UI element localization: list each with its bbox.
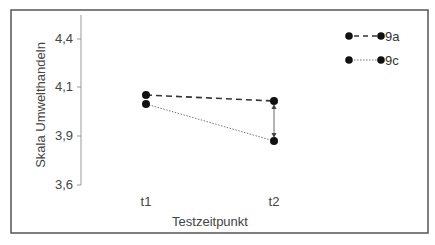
difference-arrow-t2 [272, 104, 277, 138]
y-axis-title: Skala Umwelthandeln [33, 42, 48, 168]
chart-frame [11, 10, 428, 233]
legend-label: 9a [385, 29, 400, 44]
legend-item-9c: 9c [345, 53, 399, 68]
y-tick-label: 3,6 [55, 177, 73, 192]
x-tick-label: t2 [269, 194, 280, 209]
y-tick-label: 4,1 [55, 79, 73, 94]
x-tick-label: t1 [141, 194, 152, 209]
series-9a-point-t1 [142, 91, 150, 99]
y-tick-label: 3,9 [55, 128, 73, 143]
legend-item-9a: 9a [345, 29, 400, 44]
series-9c-point-t1 [142, 100, 150, 108]
line-chart: 4,4 4,1 3,9 3,6 Skala Umwelthandeln t1 t… [0, 0, 435, 245]
legend: 9a 9c [345, 29, 400, 68]
y-axis: 4,4 4,1 3,9 3,6 [55, 15, 81, 192]
y-tick-label: 4,4 [55, 31, 73, 46]
series-9a-line [146, 95, 274, 101]
series-9a-point-t2 [270, 97, 278, 105]
x-axis-title: Testzeitpunkt [172, 214, 248, 229]
series-9c-line [146, 104, 274, 141]
series-9c-point-t2 [270, 137, 278, 145]
legend-label: 9c [385, 53, 399, 68]
